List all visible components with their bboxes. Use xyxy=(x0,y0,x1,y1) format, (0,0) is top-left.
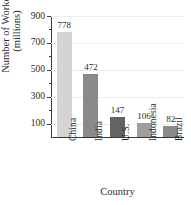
y-axis-title-line-1: Number of Workers xyxy=(0,0,11,73)
x-tick-label: Brazil xyxy=(175,117,185,141)
x-axis-title: Country xyxy=(51,186,184,197)
y-tick-major xyxy=(47,97,51,98)
x-tick-label: Indonesia xyxy=(149,103,159,141)
bar-value-label: 778 xyxy=(48,21,80,30)
y-tick-minor xyxy=(49,56,52,57)
y-tick-label: 300 xyxy=(19,92,45,102)
y-tick-label: 100 xyxy=(19,119,45,129)
gridline xyxy=(51,16,184,17)
y-tick-label: 900 xyxy=(19,12,45,22)
y-tick-major xyxy=(47,70,51,71)
y-tick-minor xyxy=(49,83,52,84)
bar-chart: Number of Workers (millions) 77847214710… xyxy=(0,0,191,205)
y-tick-major xyxy=(47,124,51,125)
y-tick-label: 500 xyxy=(19,65,45,75)
x-tick-label: China xyxy=(69,118,79,141)
y-tick-minor xyxy=(49,110,52,111)
y-tick-major xyxy=(47,16,51,17)
x-tick-label: India xyxy=(95,121,105,141)
y-tick-major xyxy=(47,43,51,44)
y-tick-label: 700 xyxy=(19,38,45,48)
x-tick-label: U.S. xyxy=(122,124,132,141)
bar-value-label: 472 xyxy=(75,63,107,72)
